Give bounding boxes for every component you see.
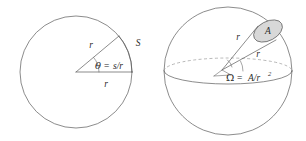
label-omega-exponent: 2 [268,70,272,77]
label-omega-symbol: Ω [226,72,234,83]
right-diagram-group: A r r Ω = A/r 2 [164,7,292,135]
left-diagram-group: r S θ = s/r r [20,16,141,128]
cone-edge-lower [222,40,276,70]
label-omega-equation-group: Ω = A/r 2 [226,70,272,83]
angle-reference-arc [241,61,244,71]
figure-svg: r S θ = s/r r [0,0,306,141]
label-radius-horizontal: r [104,79,108,89]
label-arc-s: S [136,38,141,48]
label-omega-equals: = [237,73,242,83]
label-radius-upper: r [236,32,240,42]
label-radius-oblique: r [89,40,93,50]
equator-back-dashed [164,58,292,71]
label-radius-lower: r [256,49,260,59]
label-theta-equals: = [104,61,109,71]
figure-container: r S θ = s/r r [0,0,306,141]
label-theta-value: s/r [113,61,123,71]
label-omega-numerator: A/r [247,73,260,83]
label-patch-a: A [264,26,271,36]
label-theta-symbol: θ [95,60,101,71]
cone-edge-upper [222,26,258,70]
label-angle-equation-group: θ = s/r [95,60,123,71]
